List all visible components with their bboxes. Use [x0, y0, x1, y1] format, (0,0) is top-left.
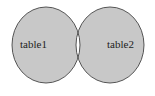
- set-table2-label: table2: [107, 38, 134, 50]
- venn-diagram: table1 table2: [0, 0, 155, 96]
- set-table1-label: table1: [20, 38, 47, 50]
